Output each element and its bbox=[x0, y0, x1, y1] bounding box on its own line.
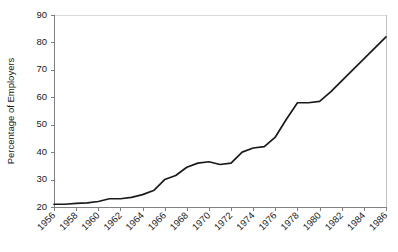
x-tick-label: 1966 bbox=[145, 210, 168, 233]
chart-canvas: 2030405060708090 19561958196019621964196… bbox=[0, 0, 398, 252]
y-tick-label: 80 bbox=[36, 36, 47, 47]
x-tick-label: 1972 bbox=[212, 210, 235, 233]
x-tick-label: 1956 bbox=[35, 210, 58, 233]
x-tick-label: 1976 bbox=[256, 210, 279, 233]
x-tick-label: 1980 bbox=[300, 210, 323, 233]
x-tick-label: 1970 bbox=[190, 210, 213, 233]
y-tick-label: 90 bbox=[36, 9, 47, 20]
x-tick-label: 1958 bbox=[57, 210, 80, 233]
plot-frame bbox=[54, 15, 387, 208]
axis-titles: Percentage of Employers bbox=[5, 57, 16, 164]
y-tick-label: 50 bbox=[36, 118, 47, 129]
y-axis-title: Percentage of Employers bbox=[5, 57, 16, 164]
x-tick-label: 1962 bbox=[101, 210, 124, 233]
x-tick-label: 1986 bbox=[367, 210, 390, 233]
y-tick-label: 60 bbox=[36, 91, 47, 102]
data-line-series bbox=[54, 37, 386, 204]
x-tick-label: 1978 bbox=[278, 210, 301, 233]
y-tick-label: 70 bbox=[36, 63, 47, 74]
y-axis-ticks bbox=[51, 16, 54, 208]
line-chart: 2030405060708090 19561958196019621964196… bbox=[0, 0, 398, 252]
x-tick-label: 1964 bbox=[123, 210, 146, 233]
x-tick-label: 1974 bbox=[234, 210, 257, 233]
y-tick-label: 20 bbox=[36, 201, 47, 212]
data-series-group bbox=[54, 37, 386, 204]
y-tick-label: 30 bbox=[36, 173, 47, 184]
x-tick-label: 1960 bbox=[79, 210, 102, 233]
y-axis-tick-labels: 2030405060708090 bbox=[36, 9, 47, 212]
x-tick-label: 1968 bbox=[167, 210, 190, 233]
y-tick-label: 40 bbox=[36, 146, 47, 157]
x-tick-label: 1982 bbox=[322, 210, 345, 233]
x-tick-label: 1984 bbox=[345, 210, 368, 233]
x-axis-tick-labels: 1956195819601962196419661968197019721974… bbox=[35, 210, 390, 233]
